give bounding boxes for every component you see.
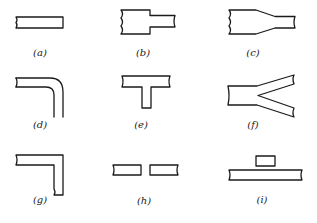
panel-a-label: (a) <box>33 47 47 58</box>
panel-e-t-junction-shape <box>122 76 170 108</box>
panel-i-label: (i) <box>256 194 267 205</box>
diagram-canvas <box>0 0 317 223</box>
panel-b-step-shape <box>121 10 175 34</box>
panel-c-taper-shape <box>229 10 295 34</box>
panel-i-overlay-shape <box>229 156 302 180</box>
panel-a-open-end-shape <box>16 17 63 28</box>
panel-e-label: (e) <box>134 119 148 130</box>
panel-d-label: (d) <box>33 119 47 130</box>
panel-g-right-angle-bend-shape <box>16 155 63 195</box>
panel-h-gap-shape <box>113 165 178 175</box>
panel-b-label: (b) <box>136 47 150 58</box>
panel-f-y-junction-shape <box>228 75 294 117</box>
panel-h-label: (h) <box>137 195 151 206</box>
panel-f-label: (f) <box>247 119 259 130</box>
panel-g-label: (g) <box>33 194 47 205</box>
panel-d-curved-bend-shape <box>16 78 63 117</box>
panel-c-label: (c) <box>246 47 259 58</box>
